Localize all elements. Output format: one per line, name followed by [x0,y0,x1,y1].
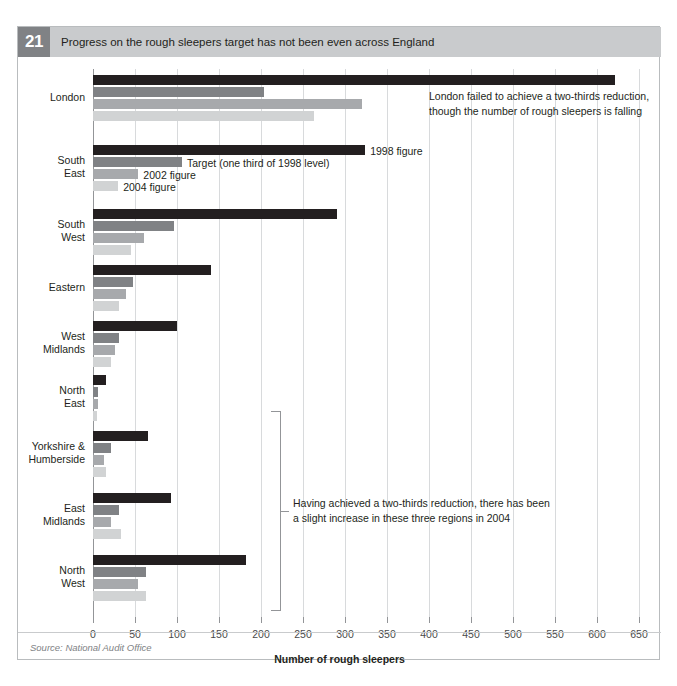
bar-group [93,321,639,367]
region-label-east-midlands: East Midlands [0,502,85,528]
bar [93,99,362,109]
bar [93,301,119,311]
x-tick-label-0: 0 [90,628,96,640]
gridline-650 [639,69,640,617]
x-tick-100 [177,617,178,623]
region-label-north-west: North West [0,564,85,590]
x-tick-label-350: 350 [378,628,396,640]
bar [93,245,131,255]
region-label-yorkshire-humberside: Yorkshire & Humberside [0,440,85,466]
x-tick-label-550: 550 [546,628,564,640]
bar [93,75,615,85]
bar [93,467,106,477]
x-tick-label-650: 650 [630,628,648,640]
region-label-london: London [0,91,85,104]
x-tick-label-500: 500 [504,628,522,640]
bar [93,87,264,97]
bar [93,443,111,453]
bar [93,579,138,589]
bar [93,157,182,167]
series-tag-2004: 2004 figure [123,181,176,193]
region-label-south-west: South West [0,218,85,244]
series-tag-target: Target (one third of 1998 level) [187,157,329,169]
bar [93,265,211,275]
bar [93,529,121,539]
bar-group [93,555,639,601]
bar [93,345,115,355]
bar [93,289,126,299]
x-tick-label-100: 100 [168,628,186,640]
x-tick-label-200: 200 [252,628,270,640]
bar [93,357,111,367]
source-note: Source: National Audit Office [30,642,152,653]
figure-number: 21 [18,27,50,57]
x-tick-450 [471,617,472,623]
figure-frame: 21 Progress on the rough sleepers target… [17,26,660,660]
bar [93,375,106,385]
bar [93,591,146,601]
x-tick-label-400: 400 [420,628,438,640]
x-tick-label-600: 600 [588,628,606,640]
x-tick-250 [303,617,304,623]
x-tick-650 [639,617,640,623]
annotation-three-regions: Having achieved a two-thirds reduction, … [293,496,550,526]
bar [93,493,171,503]
bar [93,411,97,421]
plot-area [93,69,639,617]
x-tick-500 [513,617,514,623]
bar-group [93,375,639,421]
chart-page: 21 Progress on the rough sleepers target… [0,0,677,686]
bar-group [93,209,639,255]
x-tick-550 [555,617,556,623]
region-bracket [271,411,281,611]
bar [93,505,119,515]
bar [93,209,337,219]
bar [93,399,98,409]
bar [93,455,104,465]
x-tick-400 [429,617,430,623]
bar-group [93,431,639,477]
bar [93,431,148,441]
bar [93,321,177,331]
figure-title-band: 21 Progress on the rough sleepers target… [18,27,661,57]
bar [93,517,111,527]
bar [93,567,146,577]
x-axis-title: Number of rough sleepers [18,653,661,665]
bar [93,555,246,565]
x-tick-200 [261,617,262,623]
region-label-eastern: Eastern [0,281,85,294]
plot-wrapper: 050100150200250300350400450500550600650N… [18,57,661,661]
bracket-stub [281,511,289,512]
region-label-west-midlands: West Midlands [0,330,85,356]
x-tick-150 [219,617,220,623]
bar [93,145,365,155]
figure-title: Progress on the rough sleepers target ha… [50,27,661,57]
x-tick-label-300: 300 [336,628,354,640]
bar-group [93,265,639,311]
bar [93,233,144,243]
bar [93,387,98,397]
series-tag-1998: 1998 figure [370,145,423,157]
x-tick-50 [135,617,136,623]
x-tick-label-450: 450 [462,628,480,640]
x-tick-350 [387,617,388,623]
x-tick-label-50: 50 [129,628,141,640]
x-tick-300 [345,617,346,623]
region-label-south-east: South East [0,154,85,180]
bar [93,333,119,343]
annotation-london: London failed to achieve a two-thirds re… [429,89,649,119]
bar [93,111,314,121]
series-tag-2002: 2002 figure [143,169,196,181]
bar [93,221,174,231]
bar [93,277,133,287]
bar [93,181,118,191]
x-tick-0 [93,617,94,623]
x-tick-label-150: 150 [210,628,228,640]
footer-divider [18,632,661,633]
bar [93,169,138,179]
x-tick-600 [597,617,598,623]
region-label-north-east: North East [0,384,85,410]
x-tick-label-250: 250 [294,628,312,640]
